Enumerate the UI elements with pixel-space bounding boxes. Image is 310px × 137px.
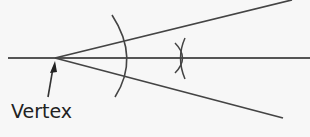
compass-arc	[112, 15, 127, 97]
lower-ray	[55, 58, 283, 118]
vertex-arrow-head-icon	[50, 61, 57, 73]
diagram-canvas: Vertex	[0, 0, 310, 137]
vertex-label: Vertex	[11, 100, 72, 122]
upper-ray	[55, 0, 292, 58]
